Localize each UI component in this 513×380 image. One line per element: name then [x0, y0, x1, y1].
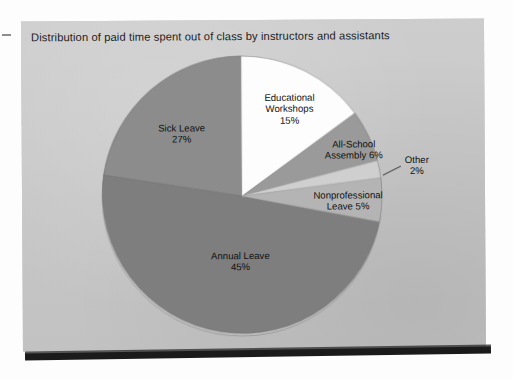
pie-chart [0, 0, 513, 380]
label-all-school-assembly: All-School Assembly 6% [306, 138, 402, 161]
label-educational-workshops-line2: Workshops [247, 103, 331, 115]
label-all-school-assembly-line1: All-School [306, 138, 402, 150]
slide-wrapper: Distribution of paid time spent out of c… [0, 0, 513, 380]
label-annual-leave: Annual Leave 45% [180, 250, 300, 274]
label-educational-workshops-line1: Educational [247, 92, 331, 104]
label-other-line1: Other [396, 154, 438, 166]
label-nonprofessional-leave-line1: Nonprofessional [292, 189, 404, 201]
label-sick-leave: Sick Leave 27% [134, 122, 230, 145]
label-educational-workshops: Educational Workshops 15% [247, 92, 331, 127]
label-educational-workshops-value: 15% [248, 114, 332, 126]
label-nonprofessional-leave: Nonprofessional Leave 5% [292, 189, 404, 212]
label-sick-leave-line1: Sick Leave [134, 122, 230, 134]
label-all-school-assembly-line2: Assembly 6% [306, 150, 402, 162]
label-annual-leave-line1: Annual Leave [180, 250, 300, 262]
label-sick-leave-value: 27% [134, 134, 230, 146]
label-annual-leave-value: 45% [180, 261, 300, 273]
scanned-page: Distribution of paid time spent out of c… [0, 0, 513, 380]
label-nonprofessional-leave-line2: Leave 5% [292, 201, 404, 213]
label-other: Other 2% [396, 154, 438, 177]
label-other-value: 2% [396, 165, 438, 177]
